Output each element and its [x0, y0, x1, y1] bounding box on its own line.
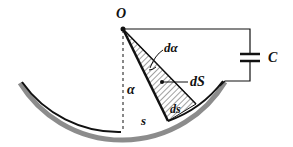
diagram-svg: O dα dS ds α s C [0, 0, 293, 147]
label-capacitor: C [268, 50, 278, 65]
label-dS: dS [190, 74, 205, 89]
label-d-alpha: dα [164, 40, 179, 55]
label-ds: ds [170, 102, 181, 116]
label-s: s [140, 113, 146, 128]
diagram-canvas: O dα dS ds α s C [0, 0, 293, 147]
sector-dS [123, 29, 196, 121]
label-alpha: α [127, 82, 135, 97]
label-origin: O [116, 6, 126, 21]
